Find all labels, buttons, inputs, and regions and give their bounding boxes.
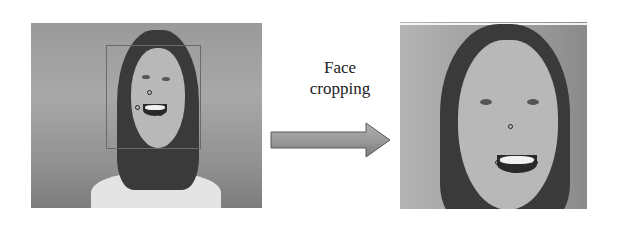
left-eye — [480, 99, 492, 105]
face-bounding-box — [106, 45, 201, 149]
caption-line-1: Face — [290, 57, 390, 78]
teeth — [500, 156, 534, 164]
caption-line-2: cropping — [290, 78, 390, 99]
landmark-nose — [508, 124, 513, 129]
cropped-face-image — [400, 22, 587, 209]
process-caption: Face cropping — [290, 57, 390, 99]
landmark-mouth-right — [533, 160, 538, 165]
right-eye — [527, 99, 539, 105]
right-arrow-icon — [270, 122, 392, 158]
original-frame-image — [31, 23, 262, 208]
landmark-mouth-left — [495, 160, 500, 165]
